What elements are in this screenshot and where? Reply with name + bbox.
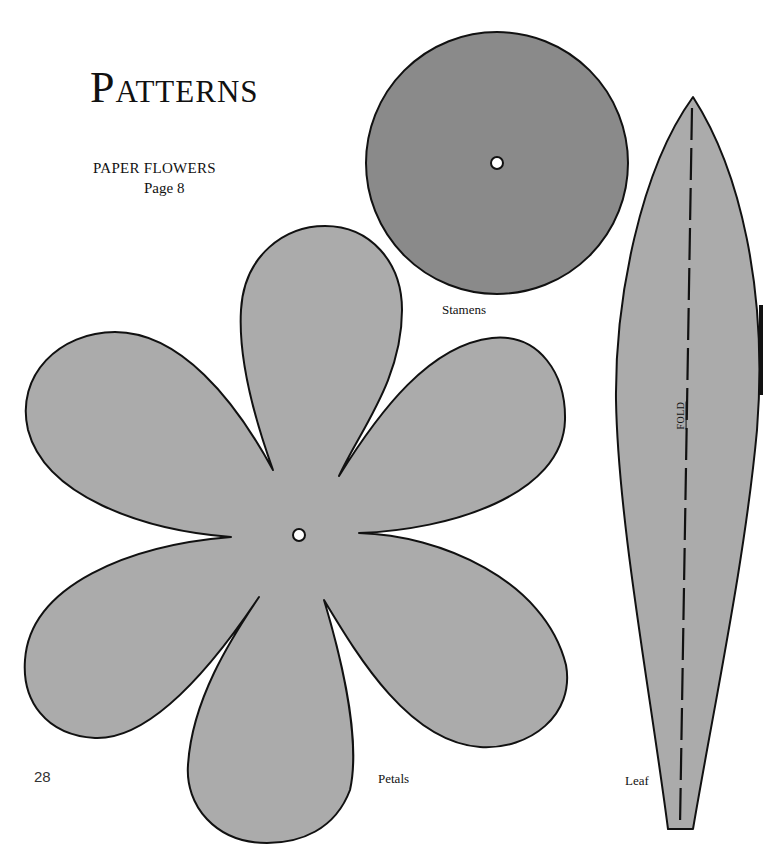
page-title: Patterns xyxy=(90,66,259,110)
page-subtitle: PAPER FLOWERS xyxy=(93,160,216,177)
pattern-artwork xyxy=(0,0,763,868)
stamens-center-hole xyxy=(491,157,503,169)
leaf-label: Leaf xyxy=(625,773,649,789)
page-edge-tab xyxy=(759,305,763,395)
leaf-shape xyxy=(616,97,759,829)
petals-label: Petals xyxy=(378,771,409,787)
petals-center-hole xyxy=(293,529,305,541)
page-reference: Page 8 xyxy=(144,180,184,197)
stamens-label: Stamens xyxy=(442,302,486,318)
page-number: 28 xyxy=(34,768,51,785)
fold-label: FOLD xyxy=(676,401,687,429)
